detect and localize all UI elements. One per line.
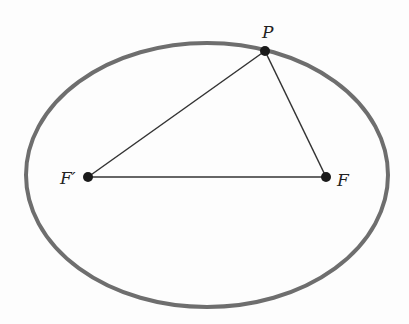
ellipse-diagram: P F′ F [0, 0, 409, 324]
label-p: P [261, 22, 274, 42]
label-f: F [336, 170, 350, 190]
point-p [260, 46, 270, 56]
point-f [321, 172, 331, 182]
ellipse-curve [26, 43, 388, 307]
point-f-prime [83, 172, 93, 182]
segment-fprime-p [88, 51, 265, 177]
label-f-prime: F′ [59, 168, 76, 188]
